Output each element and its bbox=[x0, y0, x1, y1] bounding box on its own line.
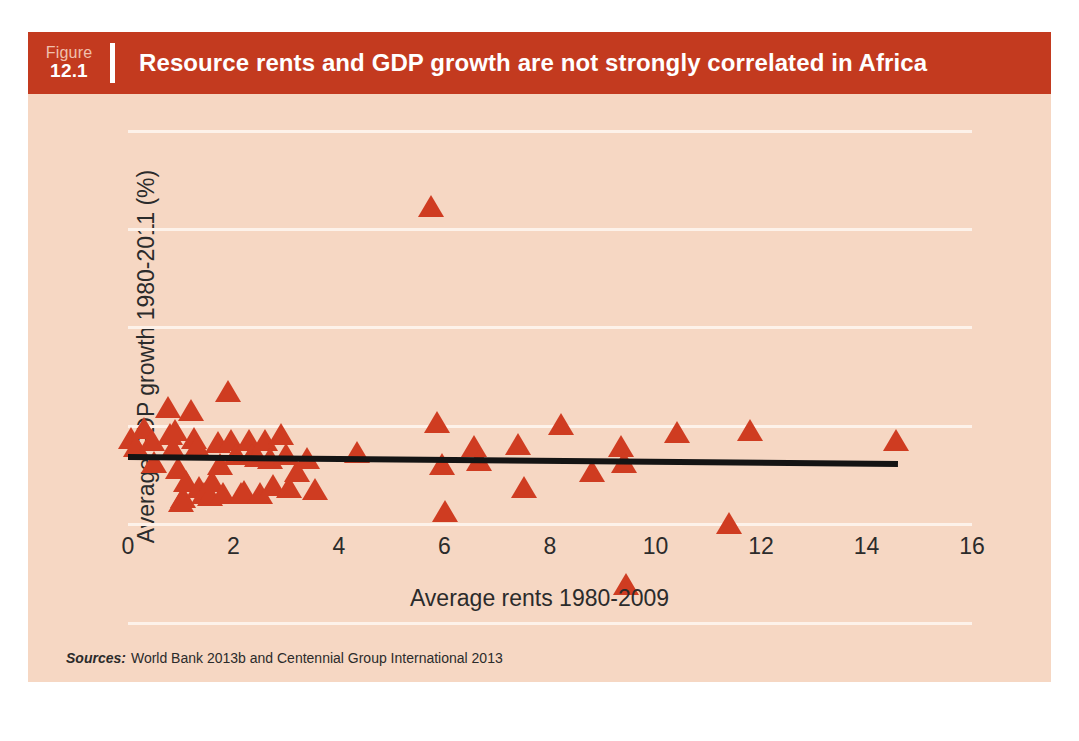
data-point-marker bbox=[511, 476, 537, 498]
data-point-marker bbox=[664, 421, 690, 443]
figure-number-value: 12.1 bbox=[50, 61, 88, 82]
figure-number-word: Figure bbox=[46, 44, 93, 61]
scatter-plot-area: Average GDP growth 1980-2011 (%) -505101… bbox=[128, 131, 972, 623]
data-point-marker bbox=[268, 423, 294, 445]
data-point-marker bbox=[424, 411, 450, 433]
x-axis-label: Average rents 1980-2009 bbox=[28, 585, 1051, 612]
x-tick-label-2: 2 bbox=[204, 533, 264, 560]
y-axis-label: Average GDP growth 1980-2011 (%) bbox=[133, 131, 160, 583]
gridline-y-20 bbox=[128, 130, 972, 133]
gridline-y-15 bbox=[128, 228, 972, 231]
figure-card: Figure 12.1 Resource rents and GDP growt… bbox=[28, 32, 1051, 682]
figure-page: Figure 12.1 Resource rents and GDP growt… bbox=[0, 0, 1079, 741]
x-tick-label-12: 12 bbox=[731, 533, 791, 560]
x-tick-label-6: 6 bbox=[415, 533, 475, 560]
data-point-marker bbox=[178, 399, 204, 421]
gridline-y-0 bbox=[128, 523, 972, 526]
x-tick-label-16: 16 bbox=[942, 533, 1002, 560]
data-point-marker bbox=[432, 500, 458, 522]
data-point-marker bbox=[505, 433, 531, 455]
figure-number-box: Figure 12.1 bbox=[28, 32, 110, 94]
data-point-marker bbox=[302, 478, 328, 500]
gridline-y-10 bbox=[128, 326, 972, 329]
data-point-marker bbox=[737, 419, 763, 441]
data-point-marker bbox=[418, 195, 444, 217]
data-point-marker bbox=[548, 413, 574, 435]
data-point-marker bbox=[215, 380, 241, 402]
figure-header: Figure 12.1 Resource rents and GDP growt… bbox=[28, 32, 1051, 94]
x-tick-label-8: 8 bbox=[520, 533, 580, 560]
plot-wrapper: Average GDP growth 1980-2011 (%) -505101… bbox=[28, 94, 1051, 682]
source-note: Sources:World Bank 2013b and Centennial … bbox=[66, 650, 503, 666]
source-text: World Bank 2013b and Centennial Group In… bbox=[131, 650, 503, 666]
data-point-marker bbox=[716, 512, 742, 534]
gridline-y--5 bbox=[128, 622, 972, 625]
source-label: Sources: bbox=[66, 650, 126, 666]
figure-title: Resource rents and GDP growth are not st… bbox=[115, 32, 1051, 94]
x-tick-label-4: 4 bbox=[309, 533, 369, 560]
x-tick-label-14: 14 bbox=[837, 533, 897, 560]
data-point-marker bbox=[883, 429, 909, 451]
x-tick-label-10: 10 bbox=[626, 533, 686, 560]
x-tick-label-0: 0 bbox=[98, 533, 158, 560]
data-point-marker bbox=[155, 396, 181, 418]
